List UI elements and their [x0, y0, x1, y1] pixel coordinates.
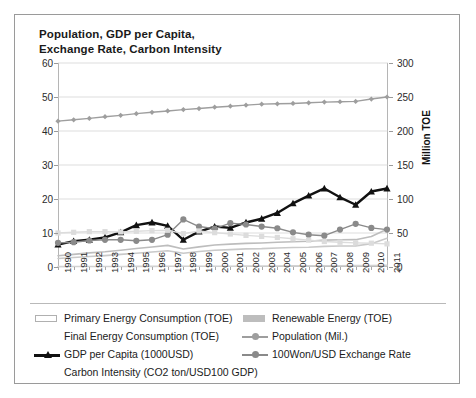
data-point: [134, 111, 139, 116]
x-axis-tick-label: 1991: [78, 252, 89, 273]
legend-label: Carbon Intensity (CO2 ton/USD100 GDP): [64, 367, 258, 378]
data-point: [196, 106, 201, 111]
data-point: [353, 240, 358, 245]
legend-marker-icon: [34, 331, 60, 342]
y-axis-left-tick: [54, 165, 58, 166]
x-axis-tick-label: 2005: [297, 252, 308, 273]
data-point: [306, 100, 311, 105]
x-axis-tick-label: 2010: [375, 252, 386, 273]
x-axis-tick-label: 1993: [109, 252, 120, 273]
legend-item[interactable]: Final Energy Consumption (TOE): [34, 331, 219, 342]
data-point: [259, 234, 264, 239]
data-point: [165, 228, 170, 233]
x-axis-tick: [324, 267, 325, 270]
data-point: [321, 185, 328, 192]
data-point: [118, 237, 124, 243]
legend-item[interactable]: Population (Mil.): [242, 331, 348, 342]
x-axis-tick: [168, 267, 169, 270]
data-point: [212, 230, 217, 235]
y-axis-left-tick-label: 0: [23, 262, 53, 273]
data-point: [337, 99, 342, 104]
data-point: [196, 228, 201, 233]
data-point: [149, 237, 155, 243]
x-axis-tick: [246, 267, 247, 270]
data-point: [102, 114, 107, 119]
legend-label: Final Energy Consumption (TOE): [64, 331, 219, 342]
x-axis-tick-label: 2001: [234, 252, 245, 273]
data-point: [290, 101, 295, 106]
x-axis-tick: [105, 267, 106, 270]
data-point: [134, 229, 139, 234]
data-point: [384, 241, 389, 246]
data-point: [322, 100, 327, 105]
x-axis-tick: [262, 267, 263, 270]
data-point: [118, 229, 123, 234]
data-point: [228, 231, 233, 236]
data-point: [306, 232, 312, 238]
data-point: [149, 110, 154, 115]
data-point: [321, 233, 327, 239]
legend-marker-icon: [34, 367, 60, 378]
x-axis-tick: [136, 267, 137, 270]
x-axis-tick-label: 1998: [187, 252, 198, 273]
data-point: [243, 103, 248, 108]
chart-legend: Primary Energy Consumption (TOE)Renewabl…: [30, 311, 446, 383]
legend-item[interactable]: GDP per Capita (1000USD): [34, 349, 193, 360]
data-point: [86, 237, 92, 243]
data-point: [306, 238, 311, 243]
legend-dot-marker: [252, 333, 259, 340]
data-point: [243, 221, 249, 227]
y-axis-right-tick: [389, 97, 393, 98]
legend-marker-icon: [242, 349, 268, 360]
data-point: [337, 227, 343, 233]
x-axis-tick-label: 2011: [391, 253, 402, 273]
data-point: [181, 231, 186, 236]
legend-item[interactable]: Carbon Intensity (CO2 ton/USD100 GDP): [34, 367, 258, 378]
x-axis-tick: [356, 267, 357, 270]
y-axis-left-tick-label: 40: [23, 126, 53, 137]
y-axis-right-tick-label: 250: [397, 92, 429, 103]
y-axis-left-tick-label: 20: [23, 194, 53, 205]
y-axis-left-tick-label: 50: [23, 92, 53, 103]
x-axis-tick: [309, 267, 310, 270]
series-population-mil: [55, 94, 389, 123]
data-point: [181, 107, 186, 112]
y-axis-right-tick: [389, 131, 393, 132]
data-point: [290, 229, 296, 235]
data-point: [133, 238, 139, 244]
y-axis-left-tick-label: 30: [23, 160, 53, 171]
x-axis-tick-label: 1996: [156, 252, 167, 273]
x-axis-tick: [199, 267, 200, 270]
x-axis-tick: [230, 267, 231, 270]
data-point: [102, 229, 107, 234]
y-axis-right-tick: [389, 233, 393, 234]
data-point: [149, 228, 154, 233]
x-axis-tick-label: 2000: [219, 252, 230, 273]
data-point: [353, 99, 358, 104]
legend-item[interactable]: Primary Energy Consumption (TOE): [34, 313, 232, 324]
x-axis-tick-label: 2002: [250, 252, 261, 273]
legend-marker-icon: [34, 349, 60, 360]
data-point: [118, 113, 123, 118]
legend-marker-icon: [242, 313, 268, 324]
x-axis-tick: [340, 267, 341, 270]
legend-marker-icon: [34, 313, 60, 324]
y-axis-left-tick: [54, 63, 58, 64]
data-point: [55, 240, 61, 246]
data-point: [275, 235, 280, 240]
y-axis-right-tick: [389, 63, 393, 64]
data-point: [384, 227, 390, 233]
x-axis-tick: [387, 267, 388, 270]
legend-item[interactable]: 100Won/USD Exchange Rate: [242, 349, 411, 360]
y-axis-left-tick: [54, 199, 58, 200]
data-point: [180, 216, 186, 222]
y-axis-left-tick: [54, 131, 58, 132]
data-point: [353, 221, 359, 227]
y-axis-right-tick: [389, 165, 393, 166]
data-point: [337, 240, 342, 245]
legend-label: Renewable Energy (TOE): [272, 313, 392, 324]
x-axis-tick: [74, 267, 75, 270]
x-axis-tick: [215, 267, 216, 270]
legend-item[interactable]: Renewable Energy (TOE): [242, 313, 392, 324]
x-axis-tick-label: 2003: [266, 252, 277, 273]
